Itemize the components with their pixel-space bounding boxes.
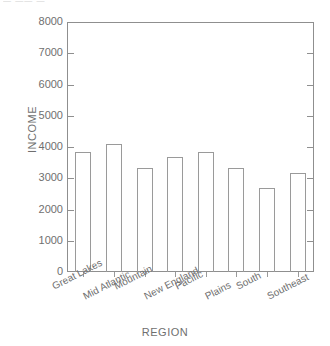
bar-chart: — —— — INCOME 80007000600050004000300020…: [0, 0, 330, 346]
x-axis-tick-label: Mountain: [112, 264, 153, 292]
x-axis-title: REGION: [0, 327, 330, 338]
x-axis-tick-labels: Great LakesMid AtlanticMountainNew Engla…: [0, 0, 330, 346]
x-axis-tick-label: Southeast: [265, 272, 310, 301]
x-axis-tick-label: South: [235, 271, 263, 292]
x-axis-tick-label: Plains: [204, 280, 233, 301]
